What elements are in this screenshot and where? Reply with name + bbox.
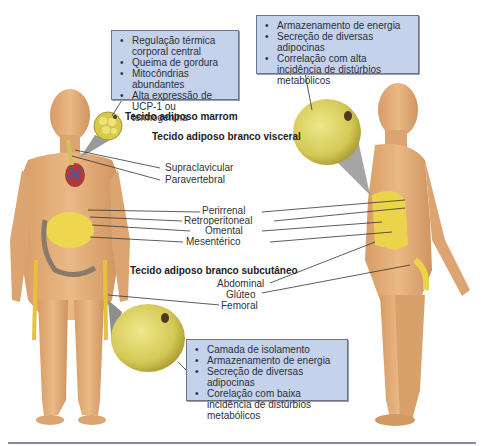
brown-fat-info-box: Regulação térmica corporal central Queim… bbox=[111, 30, 239, 100]
label-supraclavicular: Supraclavicular bbox=[163, 162, 235, 173]
label-gluteo: Glúteo bbox=[224, 289, 257, 300]
subcutaneous-fat-bullet: Corelação com baixa incidência de distúr… bbox=[207, 388, 341, 421]
label-femoral: Femoral bbox=[219, 300, 260, 311]
brown-fat-bullet: Mitocôndrias abundantes bbox=[132, 68, 232, 90]
visceral-adipocyte bbox=[293, 99, 370, 195]
label-paravertebral: Paravertebral bbox=[163, 174, 227, 185]
visceral-fat-heading: Tecido adiposo branco visceral bbox=[152, 131, 301, 142]
visceral-fat-bullet: Correlação com alta incidência de distúr… bbox=[277, 53, 412, 86]
bottom-divider bbox=[8, 442, 476, 444]
visceral-fat-info-box: Armazenamento de energia Secreção de div… bbox=[256, 15, 419, 74]
brown-fat-bullet: Regulação térmica corporal central bbox=[132, 35, 232, 57]
subcutaneous-fat-bullet: Secreção de diversas adipocinas bbox=[207, 366, 341, 388]
label-abdominal: Abdominal bbox=[215, 278, 266, 289]
visceral-fat-bullet: Secreção de diversas adipocinas bbox=[277, 31, 412, 53]
subcutaneous-fat-bullet: Armazenamento de energia bbox=[207, 355, 341, 366]
brown-fat-heading: Tecido adiposo marrom bbox=[125, 111, 238, 122]
heart-icon bbox=[65, 163, 85, 187]
label-omental: Omental bbox=[203, 225, 245, 236]
subcutaneous-fat-info-box: Camada de isolamento Armazenamento de en… bbox=[186, 339, 348, 401]
brown-fat-bullet: Queima de gordura bbox=[132, 57, 232, 68]
side-body-figure bbox=[365, 83, 470, 426]
visceral-fat-bullet: Armazenamento de energia bbox=[277, 20, 412, 31]
subcutaneous-fat-heading: Tecido adiposo branco subcutâneo bbox=[130, 265, 298, 276]
label-mesenterico: Mesentérico bbox=[184, 236, 242, 247]
subcutaneous-fat-bullet: Camada de isolamento bbox=[207, 344, 341, 355]
subcutaneous-adipocyte bbox=[108, 300, 185, 372]
